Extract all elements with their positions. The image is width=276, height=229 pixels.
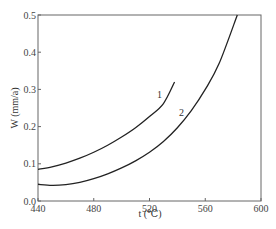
x-tick-label: 480 [86,203,101,214]
y-tick-label: 0.5 [24,10,37,21]
x-tick-label: 600 [254,203,269,214]
curve-2 [38,15,237,185]
curve-label-1: 1 [157,89,162,100]
y-tick-label: 0.1 [24,158,37,169]
y-axis-title: W (mm/a) [9,87,21,128]
curve-1 [38,82,175,169]
curve-label-2: 2 [179,107,184,118]
curves [38,15,237,185]
x-axis-title: t (℃) [138,208,161,220]
y-tick-label: 0.2 [24,121,37,132]
x-tick-label: 440 [31,203,46,214]
y-tick-label: 0.3 [24,84,37,95]
x-tick-label: 560 [198,203,213,214]
chart: 0.00.10.20.30.40.5 440480520560600 1 2 t… [0,0,276,229]
y-tick-label: 0.4 [24,47,37,58]
